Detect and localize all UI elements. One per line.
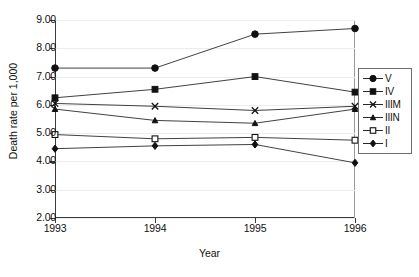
filled-triangle-marker	[370, 115, 375, 120]
filled-circle-marker	[370, 75, 376, 81]
series-layer	[55, 20, 355, 218]
series-II	[52, 132, 358, 143]
plot-area	[55, 20, 355, 218]
legend-label-IIIN: IIIN	[385, 112, 399, 123]
legend-item-IV[interactable]: IV	[362, 85, 409, 98]
legend-swatch-II	[362, 124, 384, 137]
legend-label-I: I	[385, 138, 387, 149]
filled-diamond-marker	[352, 159, 358, 166]
series-line-I	[55, 144, 355, 162]
series-line-II	[55, 135, 355, 141]
series-I	[52, 141, 358, 167]
legend: VIVIIIMIIINIII	[358, 68, 412, 154]
open-square-marker	[370, 128, 376, 134]
series-line-IV	[55, 77, 355, 98]
series-line-IIIN	[55, 109, 355, 123]
open-square-marker	[152, 136, 158, 142]
x-tick-label: 1994	[130, 222, 180, 234]
legend-item-V[interactable]: V	[362, 72, 409, 85]
legend-swatch-V	[362, 72, 384, 85]
open-square-marker	[252, 134, 258, 140]
filled-circle-marker	[352, 25, 359, 32]
y-tick-label: 9.00	[10, 13, 56, 25]
filled-triangle-marker	[352, 106, 358, 111]
series-IIIM	[52, 100, 358, 113]
filled-circle-marker	[152, 65, 159, 72]
series-line-IIIM	[55, 103, 355, 110]
filled-diamond-marker	[52, 145, 58, 152]
y-axis-title: Death rate per 1,000	[7, 36, 19, 186]
line-chart: 9.008.007.006.005.004.003.002.00 1993199…	[0, 0, 419, 277]
legend-item-IIIN[interactable]: IIIN	[362, 111, 409, 124]
filled-diamond-marker	[152, 142, 158, 149]
filled-triangle-marker	[252, 120, 258, 125]
legend-label-V: V	[385, 73, 391, 84]
filled-diamond-marker	[252, 141, 258, 148]
filled-square-marker	[152, 86, 158, 92]
legend-label-IIIM: IIIM	[385, 99, 400, 110]
series-IV	[52, 74, 358, 101]
legend-swatch-I	[362, 137, 384, 150]
filled-circle-marker	[252, 31, 259, 38]
legend-label-IV: IV	[385, 86, 394, 97]
gridline	[55, 218, 355, 219]
legend-swatch-IIIN	[362, 111, 384, 124]
x-axis-title: Year	[0, 247, 419, 259]
filled-triangle-marker	[152, 118, 158, 123]
legend-label-II: II	[385, 125, 390, 136]
series-IIIN	[52, 106, 358, 125]
x-tick-label: 1995	[230, 222, 280, 234]
filled-diamond-marker	[370, 140, 375, 147]
filled-square-marker	[370, 89, 376, 95]
x-tick-label: 1993	[30, 222, 80, 234]
legend-swatch-IIIM	[362, 98, 384, 111]
series-line-V	[55, 28, 355, 68]
legend-item-IIIM[interactable]: IIIM	[362, 98, 409, 111]
legend-item-II[interactable]: II	[362, 124, 409, 137]
x-tick-label: 1996	[330, 222, 380, 234]
legend-swatch-IV	[362, 85, 384, 98]
series-V	[52, 25, 359, 71]
legend-item-I[interactable]: I	[362, 137, 409, 150]
filled-square-marker	[252, 74, 258, 80]
